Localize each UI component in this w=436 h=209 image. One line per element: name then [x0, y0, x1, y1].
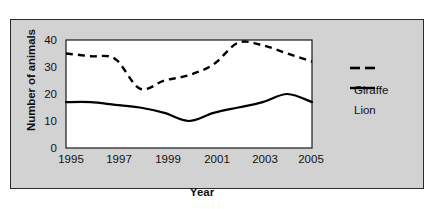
legend-label-lion: Lion [354, 104, 376, 116]
y-tick-10: 10 [35, 115, 57, 127]
x-tick-2001: 2001 [197, 153, 237, 165]
chart-panel: Number of animals Year 40 30 20 10 0 199… [10, 19, 424, 189]
x-axis-title: Year [67, 186, 337, 198]
y-tick-30: 30 [35, 61, 57, 73]
legend-label-giraffe: Giraffe [354, 84, 388, 96]
y-tick-20: 20 [35, 88, 57, 100]
x-tick-2003: 2003 [245, 153, 285, 165]
x-tick-2005: 2005 [291, 153, 331, 165]
x-tick-1999: 1999 [148, 153, 188, 165]
x-tick-1995: 1995 [51, 153, 91, 165]
y-tick-40: 40 [35, 34, 57, 46]
x-tick-1997: 1997 [99, 153, 139, 165]
chart-figure: Number of animals Year 40 30 20 10 0 199… [0, 0, 436, 209]
